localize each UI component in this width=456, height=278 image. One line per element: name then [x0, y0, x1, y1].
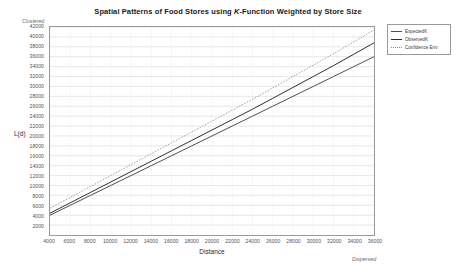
x-tick-20000: 20000 [205, 238, 219, 244]
x-tick-28000: 28000 [286, 238, 300, 244]
legend-item-observedk[interactable]: ObservedK [391, 36, 448, 43]
legend-swatch-expectedk [391, 31, 402, 32]
x-tick-26000: 26000 [266, 238, 280, 244]
x-tick-18000: 18000 [184, 238, 198, 244]
x-tick-6000: 6000 [64, 238, 76, 244]
x-tick-8000: 8000 [84, 238, 96, 244]
x-tick-22000: 22000 [225, 238, 239, 244]
x-tick-36000: 36000 [368, 238, 382, 244]
x-tick-32000: 32000 [327, 238, 341, 244]
x-tick-4000: 4000 [43, 238, 55, 244]
series-line-confidence-env [50, 30, 374, 208]
k-function-chart: Spatial Patterns of Food Stores using K-… [0, 0, 456, 278]
x-tick-24000: 24000 [246, 238, 260, 244]
x-tick-16000: 16000 [164, 238, 178, 244]
legend-label-confidence-env: Confidence Env [405, 44, 437, 51]
legend-item-expectedk[interactable]: ExpectedK [391, 28, 448, 35]
x-tick-34000: 34000 [347, 238, 361, 244]
series-line-observedk [50, 43, 374, 213]
legend: ExpectedK ObservedK Confidence Env [387, 24, 451, 55]
legend-label-observedk: ObservedK [405, 36, 428, 43]
x-tick-10000: 10000 [103, 238, 117, 244]
plot-area [49, 26, 375, 236]
x-tick-14000: 14000 [144, 238, 158, 244]
series-lines [50, 27, 374, 235]
x-tick-12000: 12000 [123, 238, 137, 244]
legend-swatch-observedk [391, 39, 402, 40]
series-line-expectedk [50, 57, 374, 215]
legend-item-confidence-env[interactable]: Confidence Env [391, 44, 448, 51]
legend-label-expectedk: ExpectedK [405, 28, 427, 35]
x-tick-30000: 30000 [307, 238, 321, 244]
legend-swatch-confidence-env [391, 47, 402, 48]
